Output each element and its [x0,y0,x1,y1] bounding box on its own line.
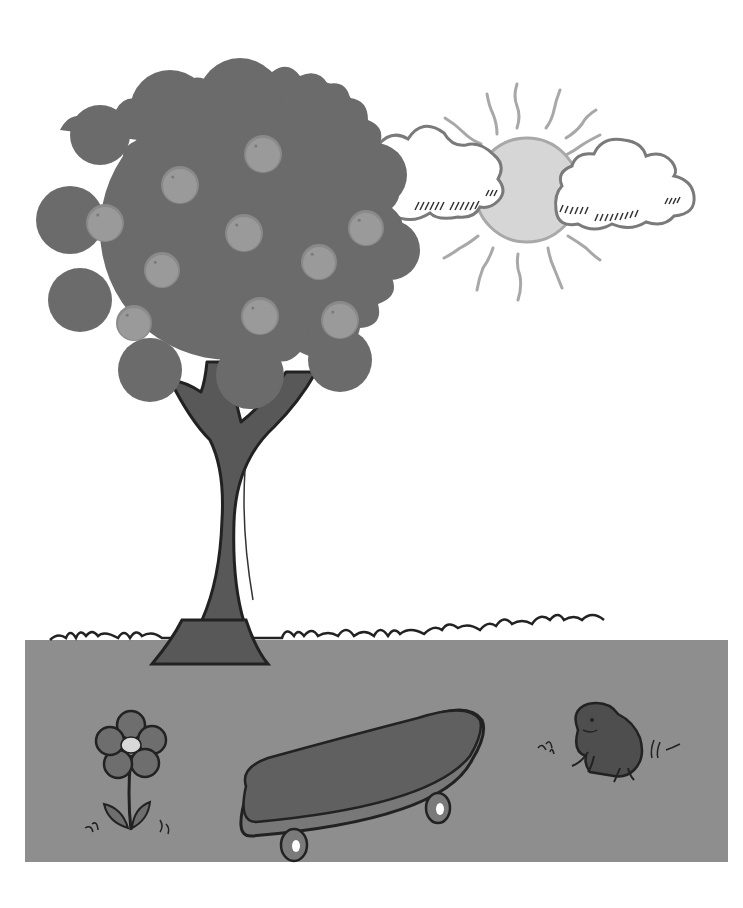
fruit-body [227,217,261,251]
fruit-body [118,308,150,340]
fruit-highlight [154,261,157,264]
fruit-highlight [358,219,361,222]
fruit-highlight [254,144,257,147]
fruit-highlight [235,223,238,226]
scene [0,0,743,908]
fruit-highlight [126,314,129,317]
fruit-highlight [251,306,254,309]
fruit-body [243,300,277,334]
fruit-body [323,304,357,338]
fruit-body [246,138,280,172]
fruit-body [163,169,197,203]
fruit-highlight [96,213,99,216]
fruit-highlight [171,175,174,178]
fruit-body [350,213,382,245]
fruit-body [303,247,335,279]
fruit-highlight [331,310,334,313]
fruit-highlight [311,253,314,256]
fruit-body [88,207,122,241]
fruit-body [146,255,178,287]
